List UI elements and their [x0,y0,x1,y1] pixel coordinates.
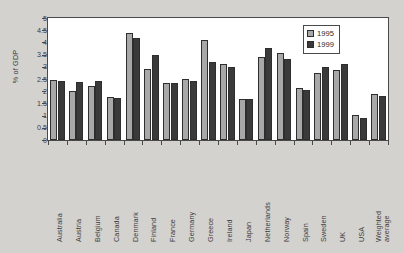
x-axis-tick-label: Greece [206,218,215,242]
legend-label-1999: 1999 [317,40,334,49]
bar-1995 [50,80,57,140]
y-axis-tick-mark [42,55,46,56]
bar-1995 [144,69,151,140]
bar-1995 [258,57,265,140]
bar-1999 [322,67,329,140]
bar-group [275,18,294,140]
bar-group [124,18,143,140]
bar-1999 [341,64,348,140]
x-axis-tick-mark [275,141,276,145]
x-axis-tick-mark [180,141,181,145]
x-axis-tick-mark [105,141,106,145]
x-axis-tick-label: USA [357,227,366,242]
x-axis-tick-label: average [382,215,391,242]
bar-group [369,18,388,140]
x-axis-tick-mark [294,141,295,145]
x-axis-tick-label: Netherlands [263,202,272,242]
x-axis-tick-mark [86,141,87,145]
x-axis-tick-mark [350,141,351,145]
x-axis-tick-label: Austria [74,219,83,242]
bar-1999 [58,81,65,140]
bar-group [142,18,161,140]
bar-group [350,18,369,140]
bar-chart: % of GDP 00.511.522.533.544.55 Australia… [0,0,404,253]
bar-group [86,18,105,140]
x-axis-tick-mark [388,141,389,145]
bar-1999 [190,81,197,140]
bar-1995 [277,53,284,140]
y-axis-tick-mark [42,91,46,92]
bar-1995 [371,94,378,140]
x-axis-tick-mark [161,141,162,145]
bar-1995 [220,64,227,140]
bar-1995 [314,73,321,140]
bar-1995 [333,70,340,140]
bar-1995 [182,79,189,140]
bar-1995 [69,91,76,140]
y-axis-tick-mark [42,30,46,31]
x-axis-tick-label: Sweden [319,215,328,242]
chart-legend: 1995 1999 [303,25,340,54]
bar-1995 [126,33,133,140]
x-axis-tick-labels: AustraliaAustriaBelgiumCanadaDenmarkFinl… [48,146,388,246]
bar-1995 [107,97,114,140]
x-axis-tick-marks [48,141,388,145]
x-axis-tick-label: Japan [244,222,253,242]
x-axis-tick-label: Ireland [225,219,234,242]
x-axis-tick-mark [142,141,143,145]
legend-item: 1995 [307,28,334,39]
bar-1999 [133,38,140,140]
bar-group [48,18,67,140]
bar-1995 [239,99,246,140]
x-axis-tick-mark [256,141,257,145]
x-axis-tick-label: Belgium [93,215,102,242]
bar-group [105,18,124,140]
bar-1999 [152,55,159,140]
y-axis-tick-mark [42,67,46,68]
bar-1995 [163,83,170,140]
bar-1999 [303,90,310,140]
bar-1999 [284,59,291,140]
x-axis-tick-mark [199,141,200,145]
bar-1999 [265,48,272,140]
x-axis-tick-mark [124,141,125,145]
y-axis-title: % of GDP [11,32,20,102]
bar-group [237,18,256,140]
bar-1999 [246,99,253,140]
x-axis-tick-label: Denmark [131,212,140,242]
x-axis-tick-label: Canada [112,216,121,242]
x-axis-tick-mark [237,141,238,145]
legend-item: 1999 [307,39,334,50]
x-axis-tick-mark [48,141,49,145]
bar-1999 [114,98,121,140]
x-axis-tick-label: Finland [149,218,158,242]
legend-swatch-1995-icon [307,30,314,37]
x-axis-tick-mark [218,141,219,145]
bar-group [180,18,199,140]
bar-1999 [95,81,102,140]
x-axis-tick-label: Norway [282,217,291,242]
bar-group [161,18,180,140]
bar-1999 [379,96,386,140]
y-axis-tick-mark [42,140,46,141]
x-axis-tick-label: France [168,219,177,242]
x-axis-tick-label: Australia [55,213,64,242]
bar-group [67,18,86,140]
bar-1995 [201,40,208,140]
bar-group [218,18,237,140]
y-axis-tick-mark [42,103,46,104]
x-axis-tick-label: UK [338,232,347,242]
y-axis-tick-mark [42,18,46,19]
legend-label-1995: 1995 [317,29,334,38]
bar-1999 [76,82,83,140]
x-axis-tick-mark [67,141,68,145]
bar-1995 [296,88,303,140]
bar-1999 [209,62,216,140]
y-axis-tick-mark [42,128,46,129]
x-axis-tick-label: Spain [301,223,310,242]
bar-1995 [352,115,359,140]
y-axis-tick-mark [42,79,46,80]
x-axis-tick-mark [369,141,370,145]
bar-group [256,18,275,140]
bar-group [199,18,218,140]
